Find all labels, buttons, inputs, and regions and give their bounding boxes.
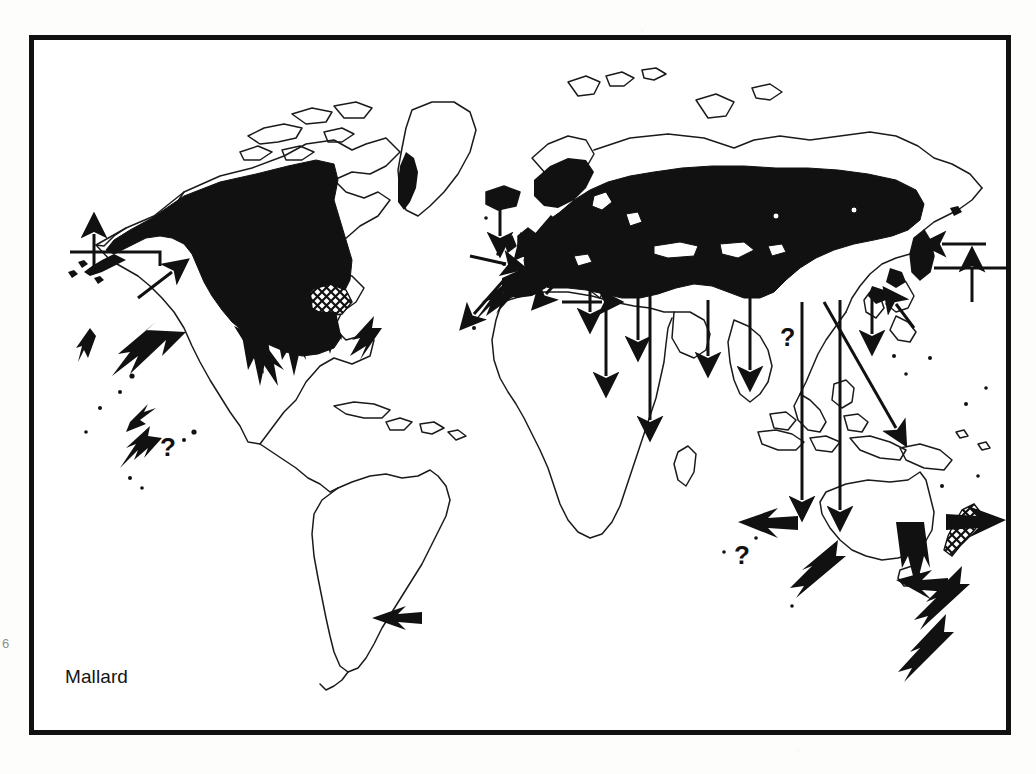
arrow-australia-southeast-northeast bbox=[790, 540, 846, 598]
arrow-hawaii-thick-southwest bbox=[112, 322, 186, 376]
figure-caption: Mallard bbox=[65, 666, 128, 688]
map-frame: ? ? ? bbox=[29, 35, 1011, 735]
page-edge-mark: 6 bbox=[2, 636, 9, 652]
arrow-australia-west-east bbox=[738, 508, 798, 538]
arrow-south-pacific-query bbox=[120, 426, 162, 468]
arrow-china-southeast-long bbox=[824, 302, 896, 428]
arrow-caribbean-northeast bbox=[350, 316, 382, 360]
query-label-tasman: ? bbox=[734, 540, 750, 570]
arrow-falklands-west bbox=[372, 606, 422, 630]
arrow-japan-northwest bbox=[896, 304, 914, 328]
arrow-british-columbia bbox=[138, 272, 172, 298]
migration-arrows-thick bbox=[76, 284, 1006, 682]
query-label-south-pacific: ? bbox=[160, 432, 176, 462]
arrow-atlantic-east bbox=[470, 256, 506, 264]
map-canvas: ? ? ? bbox=[34, 40, 1006, 730]
eurasia-range bbox=[398, 152, 962, 304]
world-map-svg: ? ? ? bbox=[34, 40, 1006, 730]
north-america-range bbox=[68, 160, 352, 356]
query-label-southeast-asia: ? bbox=[780, 323, 795, 351]
figure-page: 6 bbox=[0, 0, 1036, 774]
arrow-hawaii-northeast bbox=[126, 404, 156, 432]
arrow-hawaii-southwest-1 bbox=[76, 328, 96, 362]
